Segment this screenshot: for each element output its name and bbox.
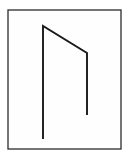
figure-canvas: [0, 0, 130, 159]
figure-frame-container: [0, 0, 130, 159]
figure-border-rect: [8, 10, 121, 149]
line-figure-svg: [0, 0, 130, 159]
